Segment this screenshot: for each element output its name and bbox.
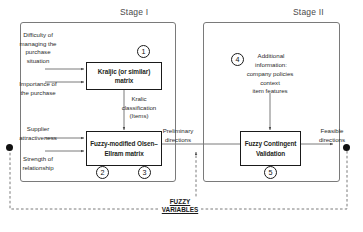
step-number-5: 5 bbox=[264, 166, 277, 179]
feasible-directions-label: Feasible directions bbox=[309, 127, 355, 144]
olsen-ellram-matrix-box[interactable]: Fuzzy-modified Olsen–Ellram matrix bbox=[86, 131, 162, 166]
preliminary-directions-label: Preliminary directions bbox=[155, 127, 201, 144]
olsen-ellram-matrix-label: Fuzzy-modified Olsen–Ellram matrix bbox=[88, 139, 160, 158]
feedback-connector-left bbox=[6, 144, 13, 151]
step-number-3: 3 bbox=[138, 166, 151, 179]
input-importance-label: Importance of the purchase bbox=[10, 80, 66, 97]
fuzzy-contingent-validation-box[interactable]: Fuzzy Contingent Validation bbox=[240, 131, 301, 166]
input-difficulty-label: Difficulty of managing the purchase situ… bbox=[10, 31, 66, 66]
step-number-4: 4 bbox=[231, 53, 244, 66]
additional-information-heading: Additional information: bbox=[247, 52, 295, 69]
additional-information-items: company policies context item features bbox=[234, 70, 306, 96]
input-supplier-attractiveness-label: Supplier attractiveness bbox=[10, 125, 66, 142]
stage-2-label: Stage II bbox=[293, 7, 324, 17]
step-number-1: 1 bbox=[137, 45, 150, 58]
diagram-canvas: Stage I Stage II Difficulty of managing … bbox=[0, 0, 363, 232]
input-strength-relationship-label: Strength of relationship bbox=[10, 155, 66, 172]
feedback-connector-right bbox=[343, 144, 350, 151]
kraljic-classification-label: Kralic classification (Items) bbox=[112, 95, 166, 121]
step-number-2: 2 bbox=[96, 166, 109, 179]
kraljic-matrix-label: Kraljic (or similar) matrix bbox=[88, 67, 160, 86]
fuzzy-variables-label: FUZZY VARIABLES bbox=[159, 198, 201, 215]
kraljic-matrix-box[interactable]: Kraljic (or similar) matrix bbox=[86, 62, 162, 90]
stage-1-label: Stage I bbox=[120, 7, 148, 17]
fuzzy-contingent-validation-label: Fuzzy Contingent Validation bbox=[242, 139, 299, 158]
